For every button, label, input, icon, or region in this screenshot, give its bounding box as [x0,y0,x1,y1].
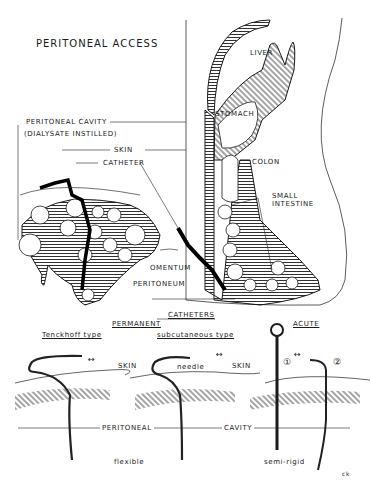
label-intestine: INTESTINE [272,200,314,208]
marker-2: ② [333,357,342,367]
label-peritoneum: PERITONEUM [133,280,185,288]
label-stomach: STOMACH [215,110,254,118]
label-flexible: flexible [112,458,146,466]
hatching-layers [15,388,360,410]
label-peritoneal-cavity: PERITONEAL CAVITY [26,118,107,126]
label-skin-2: SKIN [232,362,251,370]
label-small: SMALL [272,192,298,200]
marker-1: ① [283,357,292,367]
colon [222,155,238,202]
signature: ck [342,470,350,477]
label-liver: LIVER [250,49,273,57]
label-colon: COLON [252,158,280,166]
label-catheter: CATHETER [103,159,144,167]
label-omentum: OMENTUM [150,264,191,272]
label-acute: ACUTE [293,320,319,328]
label-catheters: CATHETERS [168,311,215,319]
label-skin: SKIN [114,146,133,154]
arrow-tenckhoff: ↔ [88,355,95,364]
label-cavity: CAVITY [222,424,254,432]
diagram-artwork [0,0,372,488]
label-semi-rigid: semi-rigid [264,458,305,466]
arrow-subcutaneous: ↔ [216,350,223,359]
label-skin-1: SKIN [118,362,137,370]
page-title: PERITONEAL ACCESS [36,38,158,49]
arrow-acute: ↔ [294,350,301,359]
label-peritoneal: PERITONEAL [100,424,154,432]
label-permanent: PERMANENT [112,320,161,328]
label-needle: needle [177,363,204,371]
bottom-skin [15,370,370,383]
acute-catheter-ring [271,324,283,336]
tenckhoff-catheter [29,356,82,460]
label-tenckhoff: Tenckhoff type [42,331,102,339]
label-subcutaneous: subcutaneous type [157,331,234,339]
skin-line [20,188,140,196]
label-dialysate: (DIALYSATE INSTILLED) [24,130,117,138]
